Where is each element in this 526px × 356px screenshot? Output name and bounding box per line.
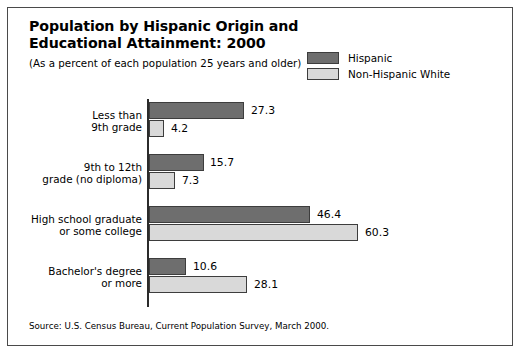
bar-value-non-hispanic-white: 28.1	[254, 276, 278, 293]
bar-value-non-hispanic-white: 7.3	[182, 172, 199, 189]
chart-figure: Population by Hispanic Origin and Educat…	[7, 7, 513, 346]
bar-hispanic	[149, 102, 244, 119]
category-label: 9th to 12th grade (no diploma)	[0, 161, 142, 186]
bar-value-hispanic: 10.6	[193, 258, 217, 275]
category-label-line: 9th grade	[91, 121, 142, 133]
category-label-line: Less than	[92, 109, 142, 121]
category-label: Less than 9th grade	[0, 109, 142, 134]
category-label-line: High school graduate	[31, 213, 142, 225]
bar-value-non-hispanic-white: 4.2	[171, 120, 188, 137]
source-note: Source: U.S. Census Bureau, Current Popu…	[29, 321, 329, 331]
category-label-line: Bachelor's degree	[48, 265, 142, 277]
category-label: Bachelor's degree or more	[0, 265, 142, 290]
category-label-line: or more	[101, 277, 142, 289]
bar-value-non-hispanic-white: 60.3	[365, 224, 389, 241]
bar-hispanic	[149, 258, 186, 275]
bar-non-hispanic-white	[149, 224, 358, 241]
category-label-line: or some college	[59, 225, 142, 237]
plot-area: Less than 9th grade 27.3 4.2 9th to 12th…	[8, 8, 514, 347]
bar-hispanic	[149, 154, 204, 171]
bar-non-hispanic-white	[149, 172, 175, 189]
bar-value-hispanic: 46.4	[317, 206, 341, 223]
bar-value-hispanic: 27.3	[251, 102, 275, 119]
bar-value-hispanic: 15.7	[210, 154, 234, 171]
category-label-line: 9th to 12th	[84, 161, 142, 173]
bar-non-hispanic-white	[149, 276, 247, 293]
bar-non-hispanic-white	[149, 120, 164, 137]
bar-hispanic	[149, 206, 310, 223]
category-label: High school graduate or some college	[0, 213, 142, 238]
category-label-line: grade (no diploma)	[42, 173, 142, 185]
